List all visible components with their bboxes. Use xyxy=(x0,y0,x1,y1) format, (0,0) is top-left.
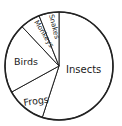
slice-label-insects: Insects xyxy=(66,64,101,75)
pie-chart: Insects Frogs Birds Monkeys Snakes xyxy=(0,0,122,126)
slice-label-birds: Birds xyxy=(14,56,38,67)
